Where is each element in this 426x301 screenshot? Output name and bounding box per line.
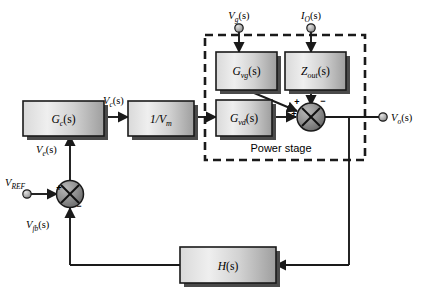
- block-diagram-svg: Gc(s) 1/Vm Gvg(s) Zout(s) Gvd(s): [0, 0, 426, 301]
- terminal-vg[interactable]: [235, 24, 243, 32]
- terminal-vref-dot: [23, 190, 31, 198]
- summing-junction-output[interactable]: + + −: [291, 96, 325, 131]
- block-hs[interactable]: H(s): [180, 247, 280, 287]
- power-stage-group-label: Power stage: [250, 142, 311, 154]
- block-zout[interactable]: Zout(s): [285, 52, 350, 94]
- terminal-vo-dot: [379, 113, 387, 121]
- terminal-vref[interactable]: [23, 190, 31, 198]
- block-hs-label: H(s): [217, 260, 239, 273]
- summing-junction-output-sign-left: +: [291, 109, 296, 119]
- block-gvg[interactable]: Gvg(s): [216, 52, 281, 94]
- terminal-vo[interactable]: [379, 113, 387, 121]
- summing-junction-input-sign-bottom: −: [76, 201, 81, 211]
- signal-label-io: IO(s): [300, 10, 322, 24]
- signal-label-vo: Vo(s): [391, 112, 413, 126]
- summing-junction-input-sign-left: +: [56, 183, 61, 193]
- block-modulator-gain[interactable]: 1/Vm: [128, 101, 198, 140]
- terminal-io[interactable]: [307, 24, 315, 32]
- terminal-vg-dot: [235, 24, 243, 32]
- summing-junction-output-sign-top: −: [320, 96, 325, 106]
- block-gc[interactable]: Gc(s): [23, 101, 108, 140]
- block-gvd[interactable]: Gvd(s): [216, 100, 276, 140]
- summing-junction-output-sign-diagonal: +: [294, 97, 299, 107]
- signal-label-vfb: Vfb(s): [26, 219, 50, 233]
- block-diagram-canvas: Gc(s) 1/Vm Gvg(s) Zout(s) Gvd(s): [0, 0, 426, 301]
- terminal-io-dot: [307, 24, 315, 32]
- signal-label-vg: Vg(s): [228, 10, 250, 24]
- signal-label-vref: VREF: [5, 177, 26, 191]
- summing-junction-input[interactable]: + −: [56, 181, 83, 212]
- signal-label-ve: Ve(s): [36, 144, 57, 158]
